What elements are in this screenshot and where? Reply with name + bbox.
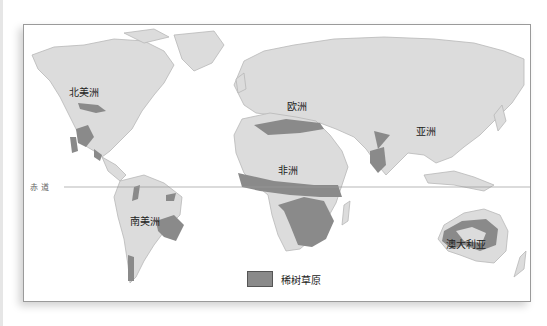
legend: 稀树草原 xyxy=(247,271,321,287)
legend-label: 稀树草原 xyxy=(281,272,321,287)
label-europe: 欧洲 xyxy=(287,98,307,113)
equator-label: 赤道 xyxy=(30,181,52,192)
label-asia: 亚洲 xyxy=(416,123,436,138)
label-australia: 澳大利亚 xyxy=(446,236,486,251)
world-map xyxy=(24,25,530,301)
legend-swatch-savanna xyxy=(247,271,273,287)
label-africa: 非洲 xyxy=(278,162,298,177)
label-north-america: 北美洲 xyxy=(69,84,99,99)
label-south-america: 南美洲 xyxy=(130,213,160,228)
world-map-frame: 赤道 北美洲 欧洲 亚洲 非洲 南美洲 澳大利亚 稀树草原 xyxy=(23,24,531,302)
page-edge xyxy=(0,0,3,326)
